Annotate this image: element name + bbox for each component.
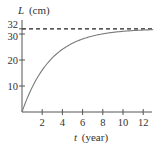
x-tick-label: 4 — [60, 117, 66, 128]
y-tick-label: 30 — [8, 31, 19, 42]
growth-curve — [22, 30, 153, 112]
growth-chart: 24681012 10203032 L (cm) t (year) — [0, 0, 154, 146]
x-tick-label: 8 — [100, 117, 105, 128]
y-tick-label: 10 — [8, 81, 19, 92]
x-tick-label: 6 — [80, 117, 85, 128]
x-axis-label: t (year) — [74, 131, 108, 144]
y-tick-label: 20 — [8, 55, 19, 66]
x-tick-label: 2 — [40, 117, 45, 128]
y-tick-label: 32 — [8, 19, 19, 30]
y-axis-label: L (cm) — [17, 4, 50, 17]
x-tick-label: 12 — [138, 117, 149, 128]
x-tick-label: 10 — [118, 117, 129, 128]
